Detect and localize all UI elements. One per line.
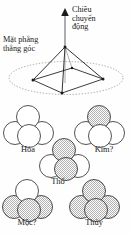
motion-direction-label: Chiều chuyển động [72,6,96,32]
perpendicular-plane-label: Mặt phẳng thẳng góc [3,36,38,53]
cluster-label-moc: Mộc? [4,219,50,228]
cluster-label-tho: Thổ [38,178,78,187]
motion-arrow [61,8,69,47]
motion-direction-line-3: động [72,23,96,32]
cluster-label-kim: Kim? [82,146,126,155]
cluster-tho [40,139,90,181]
cluster-label-hoa: Hỏa [8,146,48,155]
perpendicular-plane-line-2: thẳng góc [3,45,38,54]
cluster-hoa [4,106,54,148]
cluster-kim [75,106,125,148]
pyramid-shape [32,46,105,95]
perpendicular-plane-ellipse [9,62,123,95]
figure-canvas: Chiều chuyển động Mặt phẳng thẳng góc Hỏ… [0,0,131,236]
cluster-label-thuy: Thủy [72,219,116,228]
